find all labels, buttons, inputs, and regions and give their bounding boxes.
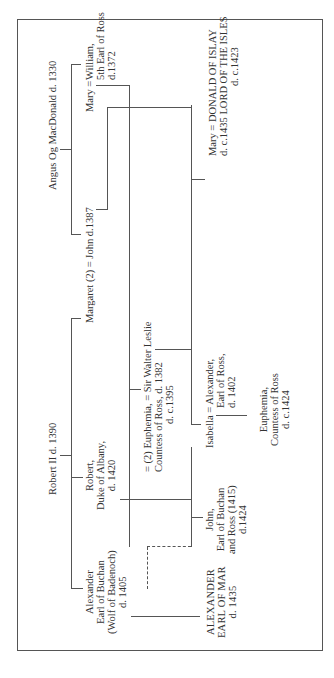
line bbox=[71, 234, 81, 235]
person-euphemia-countess-ross: Euphemia, Countess of Ross d. c.1424 bbox=[258, 373, 291, 446]
line bbox=[120, 499, 191, 500]
line bbox=[191, 105, 192, 425]
family-tree-diagram: Angus Og MacDonald d. 1330 Mary = Willia… bbox=[0, 0, 334, 678]
person-mary-ross: Mary = bbox=[84, 81, 95, 112]
line bbox=[71, 64, 72, 235]
person-angus-og: Angus Og MacDonald d. 1330 bbox=[47, 61, 58, 190]
dashed-line bbox=[147, 547, 148, 589]
line bbox=[246, 415, 247, 416]
line bbox=[107, 107, 192, 108]
person-alexander-earl-of-mar: ALEXANDER EARL OF MAR d. 1435 bbox=[205, 566, 238, 638]
line bbox=[191, 424, 201, 425]
person-mary-donald-islay: Mary = DONALD OF ISLAY d. c.1435 LORD OF… bbox=[207, 16, 240, 156]
line bbox=[129, 85, 130, 547]
person-euphemia-countess: = (2) Euphemia, = Sir Walter Leslie Coun… bbox=[142, 322, 175, 472]
line bbox=[129, 389, 141, 390]
line bbox=[71, 64, 81, 65]
line bbox=[191, 447, 192, 547]
person-john-buchan: John, Earl of Buchan and Ross (1415) d.1… bbox=[204, 485, 248, 554]
person-william-ross: William, 5th Earl of Ross d.1372 bbox=[84, 12, 117, 80]
line bbox=[191, 179, 205, 180]
line bbox=[71, 588, 83, 589]
line bbox=[96, 85, 129, 86]
line bbox=[71, 318, 72, 589]
line bbox=[155, 349, 191, 350]
person-robert-albany: Robert, Duke of Albany, d. 1420 bbox=[84, 441, 117, 510]
person-margaret-john: Margaret (2) = John d.1387 bbox=[84, 207, 95, 323]
person-robert-ii: Robert II d. 1390 bbox=[47, 423, 58, 495]
line bbox=[60, 455, 71, 456]
line bbox=[191, 517, 203, 518]
line bbox=[107, 108, 108, 210]
dashed-line bbox=[147, 546, 191, 547]
line bbox=[131, 616, 200, 617]
person-alexander-wolf-of-badenoch: Alexander Earl of Buchan (Wolf of Badeno… bbox=[84, 550, 128, 634]
person-isabella-alexander: Isabella = Alexander, Earl of Ross, d. 1… bbox=[204, 353, 237, 448]
line bbox=[71, 477, 83, 478]
line bbox=[216, 415, 246, 416]
line bbox=[71, 318, 81, 319]
